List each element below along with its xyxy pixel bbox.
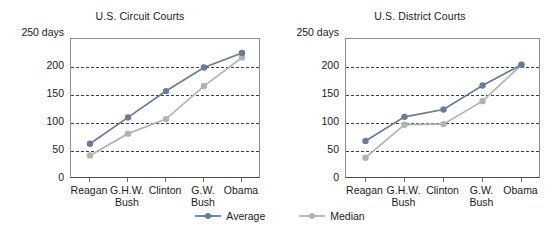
y-axis-tick-label: 200 <box>28 59 64 71</box>
x-axis-tick <box>521 178 522 182</box>
data-point-median <box>401 121 407 127</box>
series-line-median <box>90 57 242 155</box>
x-axis-tick <box>482 178 483 182</box>
plot-area <box>345 38 540 178</box>
y-axis-tick-label: 50 <box>28 143 64 155</box>
x-axis-tick <box>241 178 242 182</box>
y-axis-unit-label: 250 days <box>267 26 339 38</box>
data-point-average <box>401 114 407 120</box>
y-axis-tick-label: 0 <box>303 171 339 183</box>
y-axis-tick-label: 0 <box>28 171 64 183</box>
x-axis-tick <box>404 178 405 182</box>
chart-panel-circuit-courts: U.S. Circuit Courts 250 days 20015010050… <box>0 0 280 205</box>
data-point-average <box>239 50 245 56</box>
x-axis-tick <box>365 178 366 182</box>
series-line-average <box>90 53 242 144</box>
series-layer <box>346 39 541 179</box>
legend-marker-icon <box>195 211 221 221</box>
x-axis-tick <box>165 178 166 182</box>
x-axis-tick <box>443 178 444 182</box>
chart-title: U.S. District Courts <box>280 10 560 22</box>
data-point-average <box>163 88 169 94</box>
data-point-median <box>87 152 93 158</box>
data-point-average <box>518 62 524 68</box>
x-axis-tick <box>89 178 90 182</box>
x-axis-tick <box>127 178 128 182</box>
chart-legend: Average Median <box>0 204 560 228</box>
legend-label: Median <box>330 210 364 222</box>
data-point-average <box>440 106 446 112</box>
data-point-average <box>479 82 485 88</box>
data-point-median <box>201 83 207 89</box>
data-point-average <box>362 138 368 144</box>
legend-marker-icon <box>299 211 325 221</box>
chart-figure: U.S. Circuit Courts 250 days 20015010050… <box>0 0 560 238</box>
data-point-median <box>479 98 485 104</box>
data-point-average <box>87 141 93 147</box>
y-axis-tick-label: 200 <box>303 59 339 71</box>
series-layer <box>71 39 261 179</box>
legend-item-average: Average <box>195 210 265 222</box>
chart-panel-district-courts: U.S. District Courts 250 days 2001501005… <box>280 0 560 205</box>
x-axis-tick-label: Obama <box>209 185 273 197</box>
data-point-median <box>362 155 368 161</box>
y-axis-tick-label: 100 <box>303 115 339 127</box>
y-axis-tick-label: 150 <box>28 87 64 99</box>
data-point-average <box>201 64 207 70</box>
y-axis-tick-label: 50 <box>303 143 339 155</box>
x-axis-tick-label: Obama <box>489 185 553 197</box>
y-axis-tick-label: 100 <box>28 115 64 127</box>
legend-label: Average <box>226 210 265 222</box>
plot-area <box>70 38 260 178</box>
legend-item-median: Median <box>299 210 364 222</box>
y-axis-unit-label: 250 days <box>0 26 64 38</box>
data-point-median <box>440 121 446 127</box>
data-point-median <box>125 130 131 136</box>
chart-title: U.S. Circuit Courts <box>0 10 280 22</box>
x-axis-tick <box>203 178 204 182</box>
data-point-median <box>163 116 169 122</box>
y-axis-tick-label: 150 <box>303 87 339 99</box>
data-point-average <box>125 114 131 120</box>
series-line-average <box>366 65 522 141</box>
